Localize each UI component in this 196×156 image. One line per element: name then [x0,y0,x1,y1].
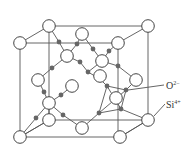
silicon-atom [59,93,64,98]
oxygen-atom [142,114,155,127]
oxygen-atom [110,92,123,105]
silicon-atom [86,70,91,75]
oxygen-atom [61,50,74,63]
silicon-label: Si4+ [166,99,181,110]
silicon-atom [119,107,124,112]
silicon-atom [75,42,80,47]
silicon-atom [105,84,110,89]
oxygen-atom [14,37,27,50]
oxygen-atom [130,74,143,87]
oxygen-atom [142,20,155,33]
oxygen-atom [14,131,27,144]
silicon-atom [97,111,102,116]
silicon-pointer-line [154,104,165,116]
silicon-atom [78,60,83,65]
oxygen-atoms [14,20,155,144]
oxygen-atom [94,70,107,83]
oxygen-atom [96,55,109,68]
silicon-atom [50,66,55,71]
silicon-atom [57,40,62,45]
oxygen-atom [32,74,45,87]
oxygen-atom [76,28,89,41]
silicon-atom [91,47,96,52]
crystal-structure-diagram: O2− Si4+ [0,0,196,156]
oxygen-atom [66,80,79,93]
oxygen-atom [43,20,56,33]
oxygen-atom [76,122,89,135]
oxygen-atom [43,114,56,127]
silicon-atom [116,64,121,69]
oxygen-label: O2− [166,80,180,91]
silicon-atom [42,90,47,95]
silicon-atom [34,116,39,121]
oxygen-atom [43,97,56,110]
oxygen-atom [112,37,125,50]
oxygen-atom [114,131,127,144]
silicon-atom [124,88,129,93]
silicon-atom [61,113,66,118]
silicon-atom [107,49,112,54]
